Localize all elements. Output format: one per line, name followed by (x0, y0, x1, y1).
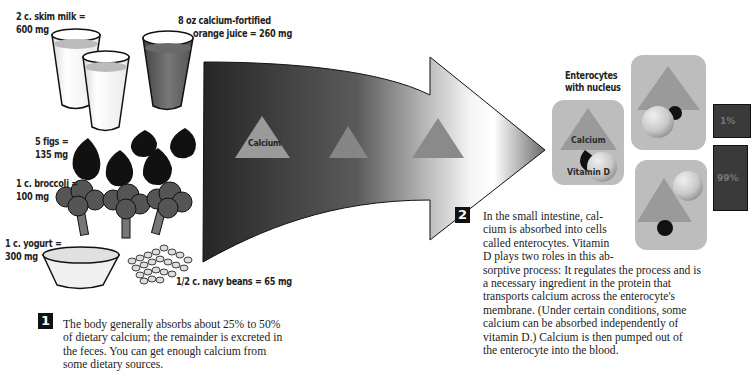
cell-calcium-label: Calcium (571, 134, 606, 145)
step-2-line: vitamin D.) Calcium is then pumped out o… (483, 331, 743, 344)
step-2-line: cium is absorbed into cells (483, 223, 743, 236)
percent-box-99: 99% (713, 145, 748, 211)
step-2-line: sorptive process: It regulates the proce… (483, 264, 743, 277)
percent-1: 1% (720, 116, 735, 126)
step-2-line: D plays two roles in this ab- (483, 250, 743, 263)
step-2-line: called enterocytes. Vitamin (483, 237, 743, 250)
step-2-line: In the small intestine, cal- (483, 210, 743, 223)
step-2-line: the enterocyte into the blood. (483, 344, 743, 357)
step-2-line: calcium can be absorbed independently of (483, 317, 743, 330)
step-2-line: membrane. (Under certain conditions, som… (483, 304, 743, 317)
percent-99: 99% (717, 173, 739, 183)
step-1-text: The body generally absorbs about 25% to … (63, 318, 283, 372)
step-2-text: In the small intestine, cal- cium is abs… (483, 210, 743, 357)
step-1-badge: 1 (38, 313, 53, 329)
percent-box-1: 1% (713, 104, 751, 138)
cell-vitamin-label: Vitamin D (567, 166, 610, 177)
step-2-line: transports calcium across the enterocyte… (483, 290, 743, 303)
step-2-line: a necessary ingredient in the protein th… (483, 277, 743, 290)
step-2-badge: 2 (455, 207, 470, 223)
